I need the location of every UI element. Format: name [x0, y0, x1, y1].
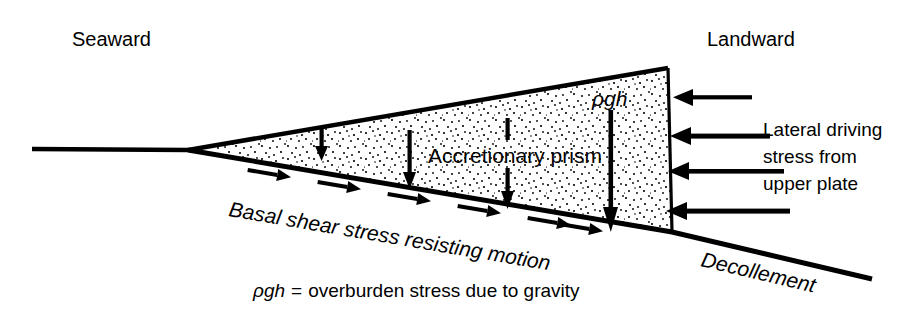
label-seaward: Seaward — [72, 28, 151, 50]
side-note-line-2: stress from — [763, 146, 857, 167]
side-note-line-1: Lateral driving — [763, 119, 882, 140]
accretionary-prism-figure: Seaward Landward Accretionary prism ρgh … — [0, 0, 924, 326]
seafloor-line — [32, 149, 188, 150]
figure-caption: ρgh=overburden stress due to gravity — [252, 280, 580, 301]
caption-equals: = — [291, 280, 302, 301]
label-basal-shear-stress: Basal shear stress resisting motion — [227, 197, 552, 274]
lateral-arrow-2 — [670, 127, 770, 145]
lateral-arrow-4 — [666, 202, 790, 220]
caption-body: overburden stress due to gravity — [308, 280, 580, 301]
diagram-root: Seaward Landward Accretionary prism ρgh … — [0, 0, 924, 326]
caption-text: ρgh=overburden stress due to gravity — [252, 280, 580, 301]
caption-symbol: ρgh — [252, 280, 285, 301]
lateral-driving-stress-note: Lateral driving stress from upper plate — [763, 119, 882, 194]
lateral-arrow-1 — [673, 89, 752, 106]
label-overburden-symbol: ρgh — [591, 87, 627, 110]
label-landward: Landward — [707, 28, 795, 50]
side-note-line-3: upper plate — [763, 173, 858, 194]
label-accretionary-prism: Accretionary prism — [428, 144, 602, 167]
